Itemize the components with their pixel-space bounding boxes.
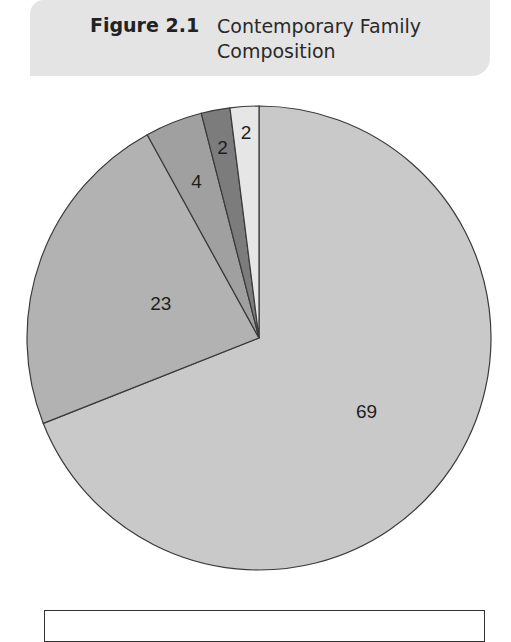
legend-box bbox=[44, 610, 485, 642]
slice-value-label: 2 bbox=[241, 122, 252, 143]
slice-value-label: 69 bbox=[356, 401, 377, 422]
slice-value-label: 23 bbox=[150, 293, 171, 314]
pie-slices bbox=[27, 106, 491, 570]
slice-value-label: 2 bbox=[217, 137, 228, 158]
slice-value-label: 4 bbox=[191, 171, 202, 192]
